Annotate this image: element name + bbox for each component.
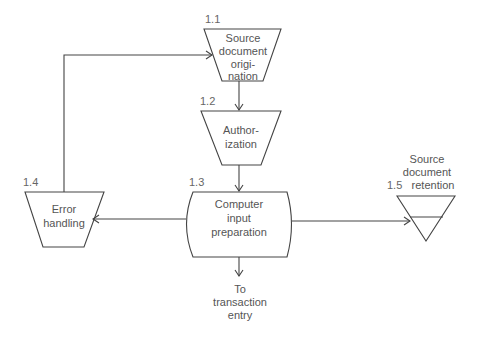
flowchart-diagram: 1.1 Source document origi- nation 1.2 Au… (0, 0, 478, 338)
node-label-line: document (403, 166, 451, 178)
terminal-label-line: entry (228, 309, 253, 321)
node-label-line: Computer (215, 198, 264, 210)
node-number-1-5: 1.5 (387, 179, 402, 191)
node-label-line: Source (410, 153, 445, 165)
node-label-line: ization (225, 138, 257, 150)
terminal-label-line: To (234, 283, 246, 295)
edge-1-3-to-1-4 (93, 215, 186, 223)
edge-1-4-to-1-1 (64, 51, 212, 192)
edge-1-3-to-1-5 (292, 217, 410, 225)
node-number-1-4: 1.4 (23, 176, 38, 188)
edge-1-1-to-1-2 (235, 81, 243, 110)
edge-1-3-to-transaction-entry (235, 257, 243, 276)
terminal-to-transaction-entry: To transaction entry (213, 283, 267, 321)
node-label-line: Author- (223, 124, 259, 136)
node-authorization[interactable]: 1.2 Author- ization (200, 95, 281, 165)
node-number-1-1: 1.1 (205, 13, 220, 25)
node-label-line: input (227, 212, 251, 224)
node-label-line: Source (226, 32, 261, 44)
node-source-document-origination[interactable]: 1.1 Source document origi- nation (204, 13, 281, 82)
node-source-document-retention[interactable]: Source document retention 1.5 (387, 153, 455, 241)
node-number-1-2: 1.2 (200, 95, 215, 107)
node-label-line: nation (228, 70, 258, 82)
node-label-line: document (219, 45, 267, 57)
node-label-line: preparation (211, 226, 267, 238)
node-label-line: origi- (231, 58, 256, 70)
edge-1-2-to-1-3 (235, 165, 243, 191)
node-number-1-3: 1.3 (189, 176, 204, 188)
node-label-line: handling (43, 217, 85, 229)
node-label-line: retention (412, 179, 455, 191)
terminal-label-line: transaction (213, 296, 267, 308)
node-label-line: Error (52, 203, 77, 215)
